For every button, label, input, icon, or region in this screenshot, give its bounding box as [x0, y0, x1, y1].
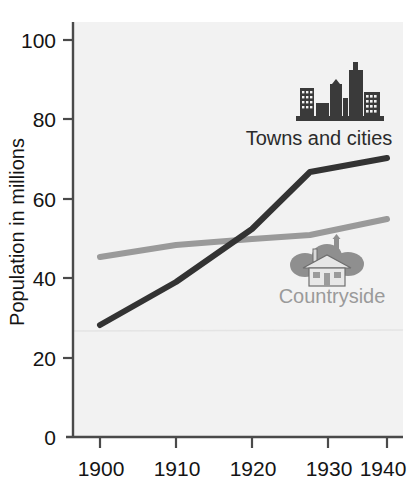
- y-tick-label-40: 40: [33, 267, 56, 290]
- y-tick-label-100: 100: [21, 29, 56, 52]
- x-tick-label-1900: 1900: [78, 457, 125, 480]
- x-tick-label-1910: 1910: [154, 457, 201, 480]
- x-axis-ticks: [100, 437, 387, 448]
- x-tick-label-1940: 1940: [360, 457, 407, 480]
- population-line-chart: 100 80 60 40 20 0 1900 1910 1920 1930 19…: [0, 0, 407, 498]
- series-label-towns-and-cities: Towns and cities: [246, 127, 393, 149]
- y-tick-label-20: 20: [33, 347, 56, 370]
- y-axis-title: Population in millions: [6, 138, 28, 326]
- chart-canvas: 100 80 60 40 20 0 1900 1910 1920 1930 19…: [0, 0, 407, 498]
- x-tick-label-1930: 1930: [306, 457, 353, 480]
- y-tick-label-80: 80: [33, 108, 56, 131]
- y-tick-label-60: 60: [33, 188, 56, 211]
- y-tick-label-0: 0: [44, 426, 56, 449]
- y-axis-ticks: [63, 40, 73, 358]
- series-label-countryside: Countryside: [279, 285, 386, 307]
- x-tick-label-1920: 1920: [230, 457, 277, 480]
